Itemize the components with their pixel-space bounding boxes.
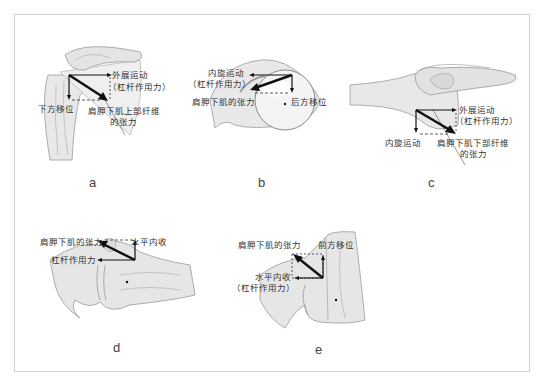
label-tension: 肩胛下肌的张力: [192, 97, 255, 107]
label-lever-force: （杠杆作用力）: [108, 82, 171, 92]
label-tension: 肩胛下肌的张力: [40, 237, 103, 247]
caption-d: d: [113, 340, 120, 355]
label-lever-force: （杠杆作用力）: [188, 79, 251, 89]
label-internal-rotation: 内旋运动: [385, 138, 421, 148]
label-tension-upper-fibers: 肩胛下肌上部纤维: [88, 106, 160, 116]
shoulder-anatomy-d: [0, 190, 220, 385]
label-tension-lower-fibers-2: 的张力: [460, 149, 487, 159]
label-abduction: 外展运动: [459, 105, 495, 115]
panel-d: 肩胛下肌的张力 水平内收 杠杆作用力 d: [0, 190, 220, 385]
label-abduction: 外展运动: [112, 70, 148, 80]
caption-c: c: [428, 175, 435, 190]
label-anterior-displacement: 前方移位: [318, 240, 354, 250]
label-horizontal-adduction: 水平内收: [255, 272, 291, 282]
label-internal-rotation: 内旋运动: [208, 68, 244, 78]
label-posterior-displacement: 后方移位: [291, 97, 327, 107]
label-horizontal-adduction: 水平内收: [131, 237, 167, 247]
caption-b: b: [258, 175, 265, 190]
label-lever-force: （杠杆作用力）: [232, 283, 295, 293]
caption-e: e: [315, 342, 322, 357]
panel-b: 内旋运动 （杠杆作用力） 肩胛下肌的张力 后方移位 b: [180, 0, 350, 190]
label-lever-force: （杠杆作用力）: [455, 116, 518, 126]
label-tension-lower-fibers: 肩胛下肌下部纤维: [437, 138, 509, 148]
label-downward-displacement: 下方移位: [38, 104, 74, 114]
shoulder-anatomy-a: [0, 0, 180, 190]
shoulder-anatomy-b: [180, 0, 350, 190]
panel-c: 外展运动 （杠杆作用力） 内旋运动 肩胛下肌下部纤维 的张力 c: [340, 0, 540, 190]
label-tension: 肩胛下肌的张力: [238, 240, 301, 250]
label-lever-force: 杠杆作用力: [51, 255, 96, 265]
panel-a: 外展运动 （杠杆作用力） 下方移位 肩胛下肌上部纤维 的张力 a: [0, 0, 180, 190]
caption-a: a: [89, 175, 96, 190]
label-tension-upper-fibers-2: 的张力: [110, 117, 137, 127]
shoulder-anatomy-c: [340, 0, 540, 190]
panel-e: 肩胛下肌的张力 前方移位 水平内收 （杠杆作用力） e: [210, 190, 410, 385]
